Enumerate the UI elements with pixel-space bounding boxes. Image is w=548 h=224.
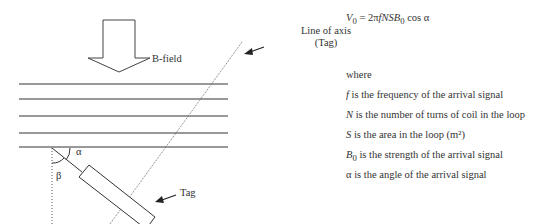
definition-item: α is the angle of the arrival signal [346,165,525,185]
eq-rhs-prefix: = 2π [357,12,379,23]
tag-pointer-arrow [155,195,176,203]
def-symbol: N [346,109,353,120]
definition-item: S is the area in the loop (m²) [346,125,525,145]
field-lines [19,84,228,147]
beta-label: β [56,170,61,182]
def-text: is the frequency of the arrival signal [349,89,503,100]
alpha-label: α [76,146,82,158]
definition-item: N is the number of turns of coil in the … [346,105,525,125]
axis-label: Line of axis (Tag) [286,25,366,49]
eq-rhs-vars: fNSB [379,12,401,23]
definitions-list: where f is the frequency of the arrival … [346,65,525,185]
axis-pointer-arrow [244,47,264,55]
where-label: where [346,65,525,85]
definition-item: f is the frequency of the arrival signal [346,85,525,105]
def-text: is the number of turns of coil in the lo… [353,109,525,120]
equation: V0 = 2πfNSB0 cos α [346,12,429,26]
beta-angle-arc [52,158,64,163]
b-field-arrow-icon [88,20,150,72]
definition-item: B0 is the strength of the arrival signal [346,145,525,165]
def-text: is the angle of the arrival signal [352,169,487,180]
def-text: is the strength of the arrival signal [357,149,503,160]
axis-label-line2: (Tag) [286,37,366,49]
axis-label-line1: Line of axis [286,25,366,37]
alpha-angle-arc [66,148,70,160]
tag-label: Tag [180,187,196,199]
tag-body [79,165,155,224]
def-text: is the area in the loop (m²) [351,129,465,140]
b-field-label: B-field [152,53,182,65]
eq-rhs-suffix: cos α [405,12,430,23]
